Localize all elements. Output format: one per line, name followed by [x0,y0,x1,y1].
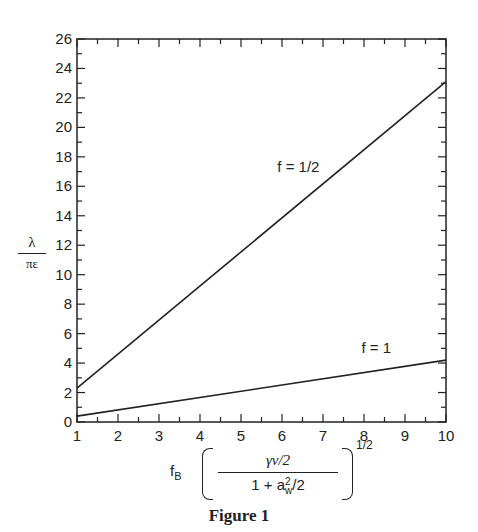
y-label-numerator: λ [18,234,46,254]
x-tick-label: 4 [196,427,204,444]
y-axis-label: λ πε [18,234,46,272]
fraction-denominator: 1 + a2w/2 [218,473,338,495]
x-label-exponent: 1/2 [356,438,373,452]
y-tick-label: 12 [55,236,72,253]
den-part-b: /2 [292,476,305,493]
y-tick-label: 16 [55,177,72,194]
y-tick-label: 24 [55,59,72,76]
data-lines [77,82,446,416]
y-tick-label: 10 [55,266,72,283]
y-tick-label: 22 [55,89,72,106]
y-tick-label: 0 [64,413,72,430]
y-label-denominator: πε [18,254,46,272]
x-tick-label: 1 [73,427,81,444]
plot-frame [77,39,446,422]
den-part-a: 1 + a [251,476,285,493]
tick-labels: 1234567891002468101214161820222426 [55,30,454,444]
y-tick-label: 14 [55,207,72,224]
y-tick-label: 2 [64,384,72,401]
x-tick-label: 10 [438,427,455,444]
series-line [77,360,446,416]
figure-caption: Figure 1 [0,506,478,526]
right-paren [342,448,353,500]
x-label-fraction: γν/2 1 + a2w/2 [218,448,338,495]
series-label: f = 1/2 [277,158,319,175]
left-paren [202,448,213,500]
y-tick-label: 18 [55,148,72,165]
axis-ticks [77,39,446,422]
x-tick-label: 6 [278,427,286,444]
x-label-fb: fB [170,462,182,482]
y-tick-label: 20 [55,118,72,135]
x-tick-label: 9 [401,427,409,444]
y-tick-label: 4 [64,354,72,371]
series-annotations: f = 1/2f = 1 [277,158,391,356]
series-label: f = 1 [361,339,391,356]
fb-subscript: B [174,470,181,482]
y-tick-label: 6 [64,325,72,342]
x-tick-label: 3 [155,427,163,444]
x-tick-label: 5 [237,427,245,444]
y-tick-label: 26 [55,30,72,47]
y-tick-label: 8 [64,295,72,312]
fraction-numerator: γν/2 [218,448,338,473]
x-tick-label: 7 [319,427,327,444]
x-tick-label: 2 [114,427,122,444]
